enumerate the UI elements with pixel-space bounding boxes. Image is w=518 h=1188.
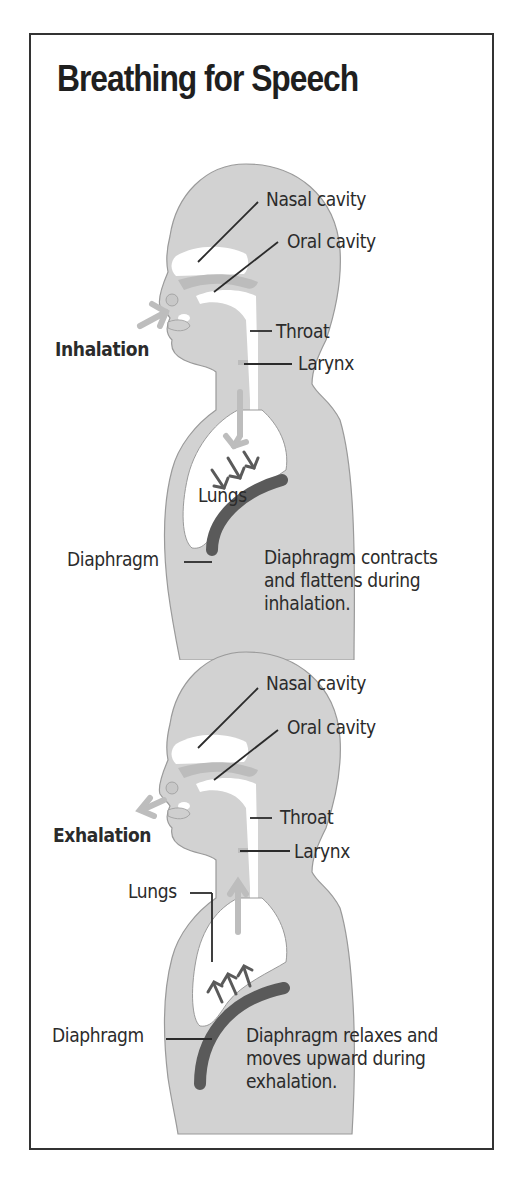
label-larynx: Larynx <box>294 840 350 862</box>
phase-label-exhalation: Exhalation <box>53 824 151 846</box>
diagram-title: Breathing for Speech <box>57 58 358 100</box>
caption-inhalation: Diaphragm contracts and flattens during … <box>264 546 471 615</box>
label-nasal-cavity: Nasal cavity <box>266 188 366 210</box>
exhalation-airflow-arrow <box>140 798 164 816</box>
label-lungs: Lungs <box>198 484 247 506</box>
inhalation-airflow-arrow <box>140 304 166 326</box>
label-larynx: Larynx <box>298 352 354 374</box>
phase-label-inhalation: Inhalation <box>55 338 149 360</box>
label-diaphragm: Diaphragm <box>67 548 159 570</box>
label-lungs: Lungs <box>128 880 177 902</box>
label-nasal-cavity: Nasal cavity <box>266 672 366 694</box>
label-throat: Throat <box>276 320 329 342</box>
caption-exhalation: Diaphragm relaxes and moves upward durin… <box>246 1024 453 1093</box>
label-oral-cavity: Oral cavity <box>287 230 376 252</box>
label-throat: Throat <box>280 806 333 828</box>
label-oral-cavity: Oral cavity <box>287 716 376 738</box>
label-diaphragm: Diaphragm <box>52 1024 144 1046</box>
